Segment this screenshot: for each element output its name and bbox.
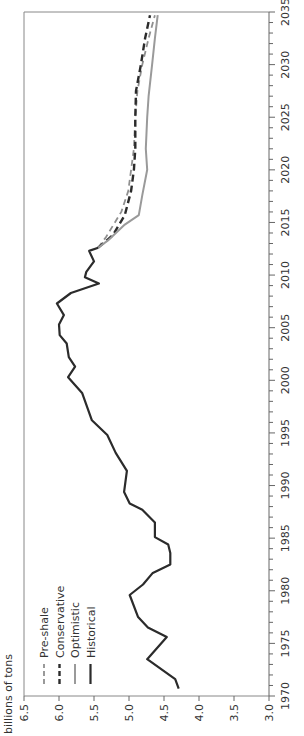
year-tick-label: 1990 [279,472,292,500]
year-tick-label: 2015 [279,208,292,236]
value-tick-label: 3.0 [263,704,276,722]
year-tick-label: 2035 [279,0,292,26]
legend-label-optimistic: Optimistic [69,602,82,658]
year-tick-label: 1980 [279,577,292,605]
year-tick-label: 2000 [279,366,292,394]
year-tick-label: 2020 [279,156,292,184]
value-axis: 3.03.54.04.55.05.56.06.5 [18,696,276,722]
chart-body: 1970197519801985199019952000200520102015… [2,0,292,734]
y-axis-title: billions of tons [2,654,15,734]
legend: Pre-shaleConservativeOptimisticHistorica… [38,585,98,684]
value-tick-label: 5.0 [123,704,136,722]
year-tick-label: 1970 [279,682,292,710]
value-tick-label: 3.5 [228,704,241,722]
year-axis: 1970197519801985199019952000200520102015… [269,0,292,710]
value-tick-label: 4.0 [193,704,206,722]
value-tick-label: 6.5 [18,704,31,722]
value-tick-label: 5.5 [88,704,101,722]
year-tick-label: 2030 [279,51,292,79]
legend-label-pre-shale: Pre-shale [38,607,51,658]
legend-label-conservative: Conservative [54,585,67,658]
rotated-line-chart: 1970197519801985199019952000200520102015… [0,0,304,736]
year-tick-label: 1995 [279,419,292,447]
value-tick-label: 4.5 [158,704,171,722]
value-tick-label: 6.0 [53,704,66,722]
year-tick-label: 2010 [279,261,292,289]
data-series [57,15,179,688]
year-tick-label: 1985 [279,524,292,552]
year-tick-label: 1975 [279,629,292,657]
legend-label-historical: Historical [85,606,98,658]
series-optimistic [98,15,158,248]
series-conservative [98,15,150,248]
year-tick-label: 2025 [279,103,292,131]
year-tick-label: 2005 [279,314,292,342]
